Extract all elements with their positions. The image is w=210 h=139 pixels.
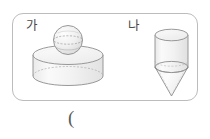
sphere (54, 26, 83, 55)
figure-page: 가 나 ( (0, 0, 210, 139)
shape-label-ga: 가 (26, 20, 38, 33)
shape-label-na: 나 (128, 20, 140, 33)
cylinder (155, 29, 188, 72)
answer-parenthesis: ( (68, 108, 74, 127)
